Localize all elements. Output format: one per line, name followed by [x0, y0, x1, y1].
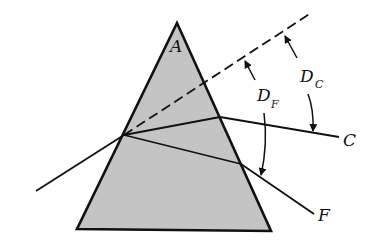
- deviation-f-lower-arrow: [261, 113, 265, 175]
- prism-dispersion-diagram: [0, 0, 371, 248]
- deviation-c-lower-arrow: [308, 94, 313, 131]
- apex-label: A: [170, 38, 182, 55]
- deviation-f-label: D: [257, 87, 271, 104]
- deviation-f-subscript: F: [271, 99, 279, 110]
- deviation-c-upper-arrow: [285, 36, 297, 58]
- deviation-f-upper-arrow: [245, 61, 255, 80]
- ray-c-label: C: [343, 132, 356, 149]
- deviation-c-label: D: [300, 68, 314, 85]
- ray-f-label: F: [318, 207, 330, 224]
- ray-c-exit: [220, 117, 339, 137]
- deviation-c-subscript: C: [315, 79, 323, 90]
